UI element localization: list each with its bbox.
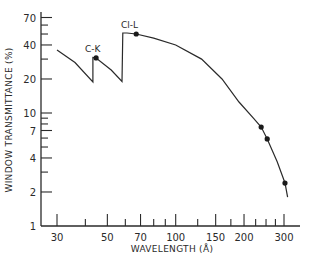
annotation-c-k: C-K: [85, 44, 102, 54]
annotation-cl-l: Cl-L: [121, 20, 138, 30]
y-ticks: [41, 18, 52, 192]
x-axis-title: WAVELENGTH (Å): [131, 243, 213, 254]
y-tick-label: 20: [23, 74, 36, 85]
y-tick-label: 7: [30, 126, 36, 137]
y-tick-label: 1: [30, 221, 36, 232]
x-tick-label: 30: [51, 232, 64, 243]
x-tick-label: 150: [206, 232, 225, 243]
data-point: [93, 55, 98, 60]
data-point: [282, 180, 287, 185]
x-tick-label: 200: [234, 232, 253, 243]
x-tick-labels: 305070100150200300: [51, 232, 294, 243]
y-tick-labels: 124710204070: [23, 13, 36, 232]
data-point: [265, 136, 270, 141]
y-tick-label: 40: [23, 40, 36, 51]
y-tick-label: 10: [23, 108, 36, 119]
axes: [41, 12, 300, 226]
x-tick-label: 70: [134, 232, 147, 243]
y-tick-label: 70: [23, 13, 36, 24]
data-point: [134, 31, 139, 36]
x-tick-label: 50: [101, 232, 114, 243]
x-ticks: [57, 214, 284, 226]
y-axis-title: WINDOW TRANSMITTANCE (%): [4, 47, 14, 192]
x-tick-label: 100: [166, 232, 185, 243]
transmittance-chart: 124710204070 305070100150200300 WINDOW T…: [0, 0, 310, 262]
y-tick-label: 2: [30, 187, 36, 198]
transmittance-curve: [57, 33, 288, 197]
x-tick-label: 300: [274, 232, 293, 243]
data-point: [259, 125, 264, 130]
y-tick-label: 4: [30, 153, 36, 164]
